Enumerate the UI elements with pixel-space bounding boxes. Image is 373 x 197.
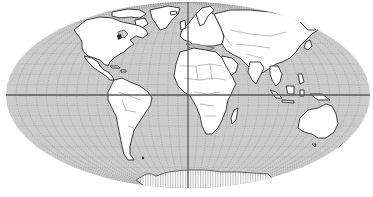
java [282, 100, 294, 103]
british-isles [180, 20, 186, 30]
hispaniola [121, 70, 126, 72]
cuba [110, 66, 120, 68]
falkland-islands [142, 157, 144, 159]
world-map [0, 0, 373, 197]
iceland [170, 11, 177, 15]
map-canvas [0, 0, 373, 197]
